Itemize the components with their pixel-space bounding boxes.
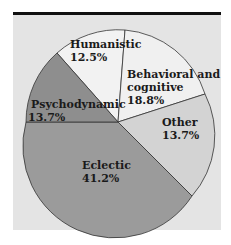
label-eclectic-pct: 41.2% xyxy=(82,172,120,185)
label-psychodynamic-pct: 13.7% xyxy=(28,111,66,124)
label-behavioral-line2: cognitive xyxy=(127,81,184,94)
label-humanistic-pct: 12.5% xyxy=(70,51,108,64)
label-behavioral-pct: 18.8% xyxy=(127,94,165,107)
label-other-pct: 13.7% xyxy=(162,129,200,142)
label-eclectic-name: Eclectic xyxy=(82,159,131,172)
label-other-name: Other xyxy=(162,116,198,129)
pie-chart: Humanistic 12.5% Behavioral and cognitiv… xyxy=(0,0,231,245)
label-humanistic-name: Humanistic xyxy=(70,38,142,51)
label-psychodynamic-name: Psychodynamic xyxy=(31,98,126,111)
label-behavioral-line1: Behavioral and xyxy=(127,68,220,81)
